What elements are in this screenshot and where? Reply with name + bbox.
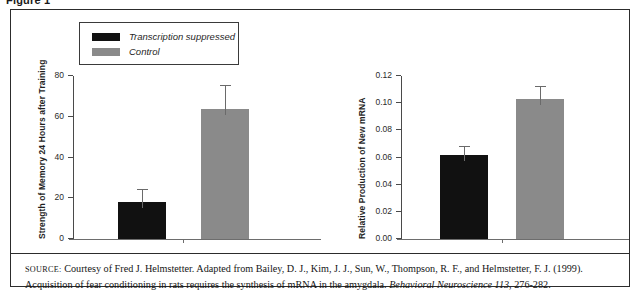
plot-box-left: 020406080 [73,76,303,239]
y-axis-title-right: Relative Production of New mRNA [357,98,367,239]
error-bar-cap [535,86,546,87]
y-axis-tick: 0.10 [396,102,401,103]
plot-area: Transcription suppressed Control Strengt… [11,10,629,250]
error-bar-cap [220,85,231,86]
bar-transcription-suppressed [440,155,488,239]
caption-text-part2: , 276-282. [509,279,551,290]
error-bar [225,86,226,114]
y-axis-tick-label: 0 [59,233,64,243]
bar-control [201,109,249,239]
error-bar-cap [459,146,470,147]
chart-memory-strength: Strength of Memory 24 Hours after Traini… [29,10,329,250]
y-axis-tick: 60 [68,116,73,117]
y-axis-tick: 0.08 [396,129,401,130]
y-axis-tick-label: 0.08 [375,124,392,134]
error-bar [540,87,541,105]
y-axis-tick-label: 60 [55,111,64,121]
y-axis-tick: 80 [68,75,73,76]
y-axis-line-left [73,76,74,239]
caption-journal: Behavioral Neuroscience 113 [389,279,509,290]
y-axis-line-right [401,76,402,239]
error-bar [464,147,465,161]
figure-frame: Transcription suppressed Control Strengt… [10,9,630,287]
y-axis-tick-label: 0.12 [375,70,392,80]
chart-mrna-production: Relative Production of New mRNA 0.000.02… [343,10,629,250]
y-axis-tick: 0.02 [396,211,401,212]
y-axis-tick-label: 40 [55,152,64,162]
y-axis-tick: 0.06 [396,157,401,158]
x-axis-line-right [397,239,629,240]
y-axis-tick-label: 0.00 [375,233,392,243]
x-axis-line-left [69,239,321,240]
y-axis-tick: 0.12 [396,75,401,76]
figure-source-caption: Source: Courtesy of Fred J. Helmstetter.… [25,262,621,292]
x-axis-center-tick [502,239,503,243]
caption-divider [11,253,629,254]
y-axis-tick-label: 80 [55,70,64,80]
error-bar-cap [137,189,148,190]
figure-label: Figure 1 [6,0,50,6]
error-bar [142,190,143,208]
y-axis-tick: 0.00 [396,238,401,239]
y-axis-title-left: Strength of Memory 24 Hours after Traini… [37,60,47,239]
y-axis-tick-label: 0.10 [375,97,392,107]
y-axis-tick-label: 0.06 [375,152,392,162]
y-axis-tick: 40 [68,157,73,158]
y-axis-tick: 0.04 [396,184,401,185]
bar-control [516,99,564,239]
y-axis-tick-label: 20 [55,192,64,202]
caption-source-label: Source: [25,265,62,274]
plot-box-right: 0.000.020.040.060.080.100.12 [401,76,611,239]
y-axis-tick: 0 [68,238,73,239]
y-axis-tick: 20 [68,197,73,198]
x-axis-center-tick [183,239,184,243]
y-axis-tick-label: 0.02 [375,206,392,216]
y-axis-tick-label: 0.04 [375,179,392,189]
